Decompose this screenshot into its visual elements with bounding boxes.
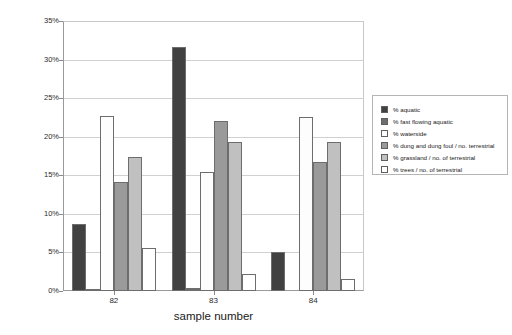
bar: [142, 248, 156, 291]
y-axis-tick-label: 25%: [25, 94, 59, 102]
legend-label: % waterside: [393, 130, 427, 137]
legend-label: % aquatic: [393, 106, 420, 113]
legend-swatch: [381, 130, 388, 137]
legend-item: % trees / no. of terrestrial: [381, 164, 507, 175]
bar: [214, 121, 228, 291]
bar: [313, 162, 327, 291]
x-axis-tick-label: 84: [293, 296, 333, 305]
legend-item: % fast flowing aquatic: [381, 116, 507, 127]
bar: [299, 117, 313, 291]
bar: [271, 252, 285, 291]
legend-swatch: [381, 118, 388, 125]
y-axis-tick-label: 35%: [25, 17, 59, 25]
bar: [128, 157, 142, 291]
x-axis-tick-mark: [214, 291, 215, 295]
bar: [172, 47, 186, 291]
bar: [242, 274, 256, 291]
legend-label: % fast flowing aquatic: [393, 118, 453, 125]
y-axis-tick-mark: [59, 175, 63, 176]
legend-label: % dung and dung foul / no. terrestrial: [393, 142, 494, 149]
bar: [341, 279, 355, 291]
bar: [100, 116, 114, 291]
bar: [327, 142, 341, 291]
legend-swatch: [381, 142, 388, 149]
legend-item: % waterside: [381, 128, 507, 139]
bar: [200, 172, 214, 291]
x-axis-tick-mark: [114, 291, 115, 295]
bar: [114, 182, 128, 291]
y-axis-tick-label: 15%: [25, 171, 59, 179]
legend-item: % dung and dung foul / no. terrestrial: [381, 140, 507, 151]
x-axis-tick-mark: [313, 291, 314, 295]
y-axis-tick-mark: [59, 137, 63, 138]
y-axis-tick-mark: [59, 60, 63, 61]
legend-label: % trees / no. of terrestrial: [393, 166, 462, 173]
bar-chart: 0%5%10%15%20%25%30%35% sample number % a…: [0, 0, 512, 335]
legend-item: % aquatic: [381, 104, 507, 115]
legend-swatch: [381, 106, 388, 113]
legend-swatch: [381, 154, 388, 161]
y-axis-tick-mark: [59, 252, 63, 253]
chart-legend: % aquatic% fast flowing aquatic% watersi…: [372, 95, 508, 175]
bar: [228, 142, 242, 291]
y-axis: 0%5%10%15%20%25%30%35%: [21, 21, 59, 291]
y-axis-tick-mark: [59, 98, 63, 99]
x-axis-tick-label: 82: [94, 296, 134, 305]
legend-swatch: [381, 166, 388, 173]
y-axis-tick-label: 20%: [25, 133, 59, 141]
bar: [86, 289, 100, 291]
legend-item: % grassland / no. of terrestrial: [381, 152, 507, 163]
x-axis-title: sample number: [63, 310, 364, 322]
y-axis-tick-mark: [59, 291, 63, 292]
y-axis-tick-label: 30%: [25, 56, 59, 64]
x-axis-tick-label: 83: [194, 296, 234, 305]
y-axis-tick-label: 0%: [25, 287, 59, 295]
legend-label: % grassland / no. of terrestrial: [393, 154, 475, 161]
y-axis-tick-label: 10%: [25, 210, 59, 218]
y-axis-tick-mark: [59, 214, 63, 215]
y-axis-tick-mark: [59, 21, 63, 22]
bar: [72, 224, 86, 291]
y-axis-tick-label: 5%: [25, 248, 59, 256]
bar: [186, 288, 200, 291]
bars-layer: [64, 22, 363, 291]
